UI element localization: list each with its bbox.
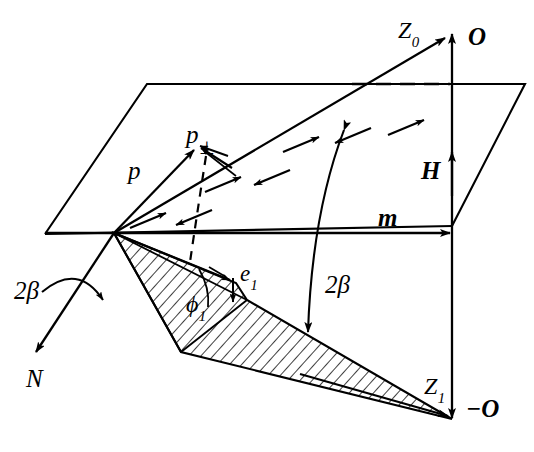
vector-diagram-figure: p p⊥ Z0 Z1 e1 ϕ1 O −O H m N 2β 2β	[0, 0, 534, 452]
label-Z1-base: Z	[424, 373, 437, 399]
label-H: H	[421, 158, 440, 183]
N-vector	[36, 233, 114, 352]
label-p: p	[128, 158, 141, 183]
label-p-perp-base: p	[186, 121, 199, 148]
hatched-cone-region	[114, 233, 452, 419]
label-m: m	[378, 205, 397, 230]
label-Z0-sub: 0	[412, 34, 419, 50]
label-Z0: Z0	[398, 18, 419, 47]
label-e1: e1	[240, 262, 257, 289]
label-two-beta-left: 2β	[14, 278, 39, 303]
label-N: N	[26, 366, 43, 391]
label-phi1-sub: 1	[199, 308, 206, 324]
label-e1-sub: 1	[251, 277, 258, 293]
label-p-perp: p⊥	[186, 122, 215, 153]
label-O-bottom: −O	[466, 396, 499, 421]
label-Z1-sub: 1	[438, 390, 445, 406]
label-two-beta-center: 2β	[325, 272, 350, 297]
label-p-perp-sub: ⊥	[199, 138, 215, 158]
p-vector	[114, 150, 194, 233]
two-beta-center-arc	[308, 130, 344, 332]
label-Z1: Z1	[424, 374, 445, 403]
diagram-canvas	[0, 0, 534, 452]
label-O-top: O	[468, 24, 486, 49]
label-e1-base: e	[240, 261, 250, 286]
label-Z0-base: Z	[398, 17, 411, 43]
label-phi1-base: ϕ	[186, 291, 198, 317]
p-perp-projection-dashed	[190, 156, 206, 262]
label-phi1: ϕ1	[186, 292, 206, 321]
